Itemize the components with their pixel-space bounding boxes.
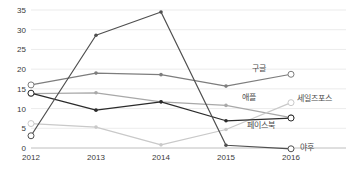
series-endpoint-marker-페이스북 [288,115,294,121]
y-axis-tick-label: 5 [22,124,27,133]
series-point-페이스북 [94,108,98,112]
y-axis-tick-label: 20 [17,65,26,74]
y-axis-tick-label: 10 [17,105,26,114]
series-endpoint-marker-구글 [28,82,34,88]
series-point-페이스북 [224,119,228,123]
series-point-페이스북 [159,100,163,104]
series-point-구글 [159,73,163,77]
series-label-페이스북: 페이스북 [247,120,275,130]
x-axis-group: 20122013201420152016 [22,153,300,162]
series-endpoint-marker-세일즈포스 [288,100,294,106]
series-point-세일즈포스 [94,125,98,129]
series-point-세일즈포스 [224,128,228,132]
series-endpoint-marker-세일즈포스 [28,121,34,127]
series-point-애플 [224,104,228,108]
series-group [28,10,294,152]
series-label-세일즈포스: 세일즈포스 [297,94,332,103]
series-point-야후 [94,33,98,37]
series-endpoint-marker-야후 [288,146,294,152]
series-endpoint-marker-야후 [28,133,34,139]
series-point-야후 [224,143,228,147]
line-chart-container: 3530252015105020122013201420152016구글애플세일… [0,0,352,183]
series-label-구글: 구글 [252,64,266,73]
y-axis-tick-label: 35 [17,6,26,15]
x-axis-tick-label: 2012 [22,153,40,162]
series-point-야후 [159,10,163,14]
series-point-세일즈포스 [159,143,163,147]
series-point-구글 [224,84,228,88]
y-axis-tick-label: 15 [17,85,26,94]
series-endpoint-marker-페이스북 [28,90,34,96]
y-axis-tick-label: 25 [17,45,26,54]
series-endpoint-marker-구글 [288,71,294,77]
grid-group: 35302520151050 [17,6,346,153]
x-axis-tick-label: 2014 [152,153,170,162]
line-chart: 3530252015105020122013201420152016구글애플세일… [0,0,352,183]
series-point-구글 [94,71,98,75]
series-labels-group: 구글애플세일즈포스페이스북야후 [242,64,332,152]
x-axis-tick-label: 2013 [87,153,105,162]
y-axis-tick-label: 30 [17,26,26,35]
series-label-애플: 애플 [242,93,256,102]
y-axis-tick-label: 0 [22,144,27,153]
x-axis-tick-label: 2015 [217,153,235,162]
x-axis-tick-label: 2016 [282,153,300,162]
series-label-야후: 야후 [300,142,314,152]
series-point-애플 [94,91,98,95]
